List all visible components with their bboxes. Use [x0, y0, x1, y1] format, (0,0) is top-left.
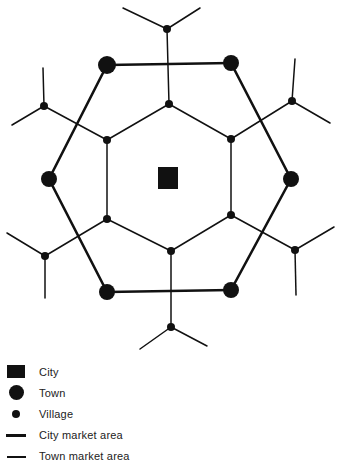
legend-item-town: Town	[0, 384, 300, 404]
city-marker	[158, 167, 178, 189]
central-place-diagram	[0, 0, 344, 360]
village-dot-icon	[12, 410, 20, 418]
town-circle-icon	[9, 385, 24, 400]
legend-label: Village	[39, 408, 73, 420]
legend-label: Town	[39, 387, 65, 399]
legend-item-town-market-area: Town market area	[0, 447, 300, 467]
legend-item-village: Village	[0, 405, 300, 425]
legend-item-city-market-area: City market area	[0, 426, 300, 446]
city-square-icon	[7, 365, 25, 378]
legend-label: City	[39, 366, 59, 378]
legend-label: Town market area	[39, 450, 130, 462]
thick-line-icon	[6, 434, 26, 437]
thin-line-icon	[7, 456, 26, 458]
legend-label: City market area	[39, 429, 123, 441]
legend-item-city: City	[0, 363, 300, 383]
